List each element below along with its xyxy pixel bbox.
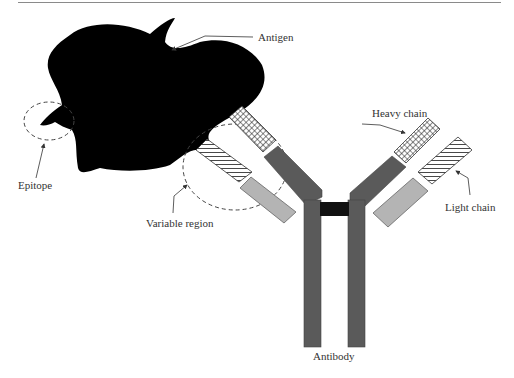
variable-region-leader [173, 185, 187, 213]
light-chain-label: Light chain [445, 201, 496, 213]
light-chain-variable-left [196, 139, 252, 182]
epitope-label: Epitope [18, 179, 52, 191]
heavy-chain-variable-right [394, 118, 440, 163]
heavy-chain-stem-left [304, 200, 321, 347]
heavy-chain-label: Heavy chain [372, 107, 428, 119]
antigen-label: Antigen [258, 31, 294, 43]
antigen-shape [40, 18, 265, 172]
heavy-chain-stem-right [348, 200, 365, 347]
variable-region-label: Variable region [146, 217, 214, 229]
light-chain-variable-right [418, 137, 472, 184]
light-chain-leader [456, 171, 470, 195]
antibody-label: Antibody [313, 350, 355, 362]
hinge-disulfide [320, 202, 349, 216]
heavy-chain-variable-left [229, 106, 276, 152]
epitope-leader [36, 144, 44, 178]
antibody-diagram: Antigen Epitope Variable region Heavy ch… [0, 0, 514, 378]
heavy-chain-leader [362, 124, 405, 133]
